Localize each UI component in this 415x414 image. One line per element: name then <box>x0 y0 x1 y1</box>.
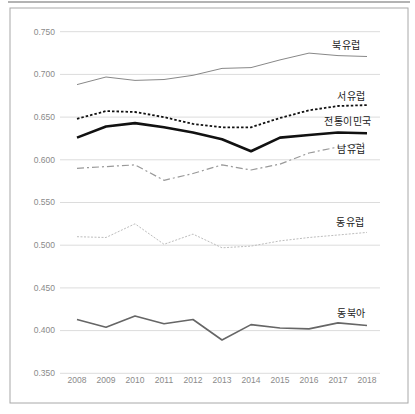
series-label-south-europe: 남유럽 <box>337 145 366 155</box>
series-label-northeast-asia: 동북아 <box>337 309 366 319</box>
figure: 0.3500.4000.4500.5000.5500.6000.6500.700… <box>0 0 415 414</box>
series-line-2 <box>77 123 367 151</box>
y-tick-label: 0.500 <box>34 240 56 250</box>
series-line-0 <box>77 53 367 85</box>
series-label-west-europe: 서유럽 <box>337 92 366 102</box>
x-tick-label: 2018 <box>358 375 377 385</box>
y-tick-label: 0.700 <box>34 69 56 79</box>
y-tick-label: 0.450 <box>34 283 56 293</box>
line-chart: 0.3500.4000.4500.5000.5500.6000.6500.700… <box>0 0 415 414</box>
x-tick-label: 2014 <box>242 375 261 385</box>
x-tick-label: 2016 <box>300 375 319 385</box>
y-tick-label: 0.650 <box>34 112 56 122</box>
series-line-3 <box>77 143 367 181</box>
x-tick-label: 2008 <box>68 375 87 385</box>
y-tick-label: 0.600 <box>34 155 56 165</box>
series-label-north-europe: 북유럽 <box>332 41 361 51</box>
x-tick-label: 2010 <box>126 375 145 385</box>
x-tick-label: 2011 <box>155 375 174 385</box>
series-label-traditional-immigration: 전통이민국 <box>324 117 372 127</box>
y-tick-label: 0.550 <box>34 197 56 207</box>
x-tick-label: 2009 <box>97 375 116 385</box>
series-line-5 <box>77 316 367 340</box>
x-tick-label: 2017 <box>329 375 348 385</box>
x-tick-label: 2015 <box>271 375 290 385</box>
y-tick-label: 0.400 <box>34 325 56 335</box>
series-label-east-europe: 동유럽 <box>336 218 365 228</box>
x-tick-label: 2013 <box>213 375 232 385</box>
x-tick-label: 2012 <box>184 375 203 385</box>
series-line-4 <box>77 224 367 248</box>
y-tick-label: 0.750 <box>34 27 56 37</box>
y-tick-label: 0.350 <box>34 368 56 378</box>
chart-frame <box>10 8 408 403</box>
